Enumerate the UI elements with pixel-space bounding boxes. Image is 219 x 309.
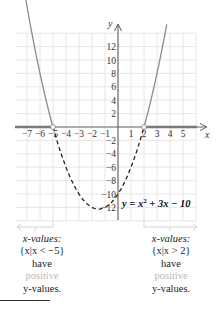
svg-text:−8: −8 (106, 176, 116, 186)
svg-text:−4: −4 (61, 129, 71, 139)
svg-text:−12: −12 (101, 203, 116, 213)
svg-text:−6: −6 (106, 163, 116, 173)
svg-text:−2: −2 (106, 136, 116, 146)
svg-text:−4: −4 (106, 149, 116, 159)
caption-right-line5: y-values. (131, 283, 211, 295)
svg-text:4: 4 (168, 129, 173, 139)
svg-text:5: 5 (181, 129, 186, 139)
caption-right: x-values: {x|x > 2} have positive y-valu… (131, 233, 211, 295)
caption-left-line5: y-values. (2, 283, 82, 295)
svg-text:−6: −6 (35, 129, 45, 139)
x-axis-label: x (204, 129, 210, 140)
svg-text:3: 3 (155, 129, 160, 139)
svg-text:2: 2 (111, 109, 116, 119)
parabola-solid-left (25, 0, 53, 127)
svg-text:4: 4 (111, 96, 116, 106)
parabola-solid-right (144, 24, 167, 127)
svg-text:−5: −5 (48, 129, 58, 139)
bracket-left (17, 221, 53, 231)
svg-text:10: 10 (107, 56, 117, 66)
caption-right-line3: have (131, 258, 211, 270)
svg-text:−10: −10 (101, 190, 116, 200)
svg-text:−2: −2 (87, 129, 97, 139)
parabola-dashed-negative (53, 127, 144, 209)
caption-left: x-values: {x|x < −5} have positive y-val… (2, 233, 82, 295)
footer-rule (0, 300, 50, 301)
svg-text:8: 8 (111, 69, 116, 79)
root-point-minus-5 (51, 125, 56, 130)
caption-right-positive: positive (131, 270, 211, 282)
caption-right-line1: x-values: (152, 233, 190, 244)
y-axis-label: y (107, 18, 113, 29)
svg-text:−3: −3 (74, 129, 84, 139)
caption-right-set: {x|x > 2} (131, 245, 211, 257)
caption-left-line3: have (2, 258, 82, 270)
caption-left-line1: x-values: (23, 233, 61, 244)
svg-text:1: 1 (129, 129, 134, 139)
svg-text:6: 6 (111, 82, 116, 92)
svg-text:−7: −7 (22, 129, 32, 139)
equation-label: y = x2 + 3x − 10 (120, 197, 191, 209)
root-point-2 (142, 125, 147, 130)
svg-text:12: 12 (107, 42, 117, 52)
bracket-right (144, 221, 197, 231)
caption-left-positive: positive (2, 270, 82, 282)
caption-left-set: {x|x < −5} (2, 245, 82, 257)
